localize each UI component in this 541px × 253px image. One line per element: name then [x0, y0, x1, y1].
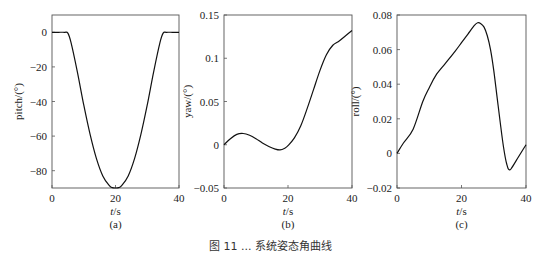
y-tick-label: −80 — [30, 165, 48, 177]
panel-label: (b) — [282, 218, 295, 231]
y-tick-label: 0 — [42, 26, 48, 38]
y-tick-label: −60 — [30, 130, 48, 142]
panel-label: (c) — [455, 218, 468, 231]
y-axis-label: yaw/(°) — [181, 85, 194, 118]
x-axis-label: t/s — [110, 205, 120, 217]
y-tick-label: 0.08 — [373, 9, 393, 21]
chart-panel-2: 020400.150.10.050−0.05t/s(b)yaw/(°) — [181, 9, 358, 231]
x-axis-label: t/s — [283, 205, 293, 217]
figure-caption: 图 11 ... 系统姿态角曲线 — [0, 237, 541, 253]
y-tick-label: 0.06 — [373, 44, 393, 56]
chart-panel-1: 020400−20−40−60−80t/s(a)pitch/(°) — [12, 15, 185, 231]
plot-frame — [224, 15, 352, 188]
y-tick-label: 0.04 — [373, 78, 393, 90]
x-tick-label: 40 — [174, 192, 186, 204]
x-axis-label: t/s — [456, 205, 466, 217]
x-tick-label: 0 — [49, 192, 55, 204]
y-tick-label: 0 — [214, 139, 220, 151]
y-tick-label: −20 — [30, 61, 48, 73]
y-tick-label: 0 — [387, 147, 393, 159]
x-tick-label: 0 — [394, 192, 400, 204]
series-line-pitch — [52, 32, 179, 188]
y-axis-label: pitch/(°) — [12, 83, 25, 120]
y-tick-label: −40 — [30, 96, 48, 108]
panel-label: (a) — [109, 218, 122, 231]
x-tick-label: 20 — [456, 192, 468, 204]
series-line-roll — [397, 23, 526, 170]
x-tick-label: 20 — [283, 192, 295, 204]
y-axis-label: roll/(°) — [349, 86, 362, 116]
x-tick-label: 0 — [221, 192, 227, 204]
y-tick-label: −0.05 — [194, 182, 220, 194]
x-tick-label: 40 — [521, 192, 533, 204]
series-line-yaw — [224, 31, 352, 150]
y-tick-label: 0.02 — [373, 113, 392, 125]
chart-panel-3: 020400.080.060.040.020−0.02t/s(c)roll/(°… — [349, 9, 532, 231]
y-tick-label: 0.05 — [200, 96, 220, 108]
x-tick-label: 20 — [110, 192, 122, 204]
x-tick-label: 40 — [347, 192, 359, 204]
y-tick-label: 0.1 — [205, 52, 219, 64]
y-tick-label: 0.15 — [200, 9, 220, 21]
y-tick-label: −0.02 — [367, 182, 392, 194]
